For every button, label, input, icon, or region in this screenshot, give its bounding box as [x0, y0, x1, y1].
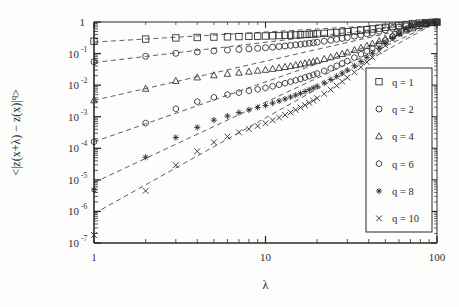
data-point — [194, 148, 200, 154]
data-point — [255, 45, 261, 51]
y-tick-label: 10 — [68, 174, 80, 186]
data-point — [195, 99, 200, 105]
y-tick-label: 10 — [68, 111, 80, 123]
data-point — [328, 77, 334, 83]
data-point — [236, 46, 242, 52]
y-axis-title-close: > — [9, 89, 23, 96]
data-point — [262, 102, 268, 108]
data-point — [364, 31, 370, 37]
x-tick-label: 1 — [91, 251, 97, 263]
data-point — [255, 86, 260, 92]
data-point — [364, 42, 371, 48]
data-point — [246, 88, 251, 94]
data-point — [328, 65, 333, 71]
data-point — [344, 67, 350, 73]
data-point — [376, 45, 382, 51]
data-point — [352, 55, 357, 61]
y-tick-label: 10 — [68, 48, 80, 60]
data-point — [344, 75, 350, 81]
data-point — [194, 34, 200, 40]
x-axis-title: λ — [263, 278, 269, 292]
data-point — [173, 162, 179, 168]
data-point — [143, 188, 149, 194]
data-point — [236, 69, 243, 75]
y-tick-exponent: -2 — [81, 76, 87, 85]
data-point — [276, 82, 281, 88]
data-point — [282, 112, 288, 118]
data-point — [225, 134, 231, 140]
data-point — [211, 94, 216, 100]
data-point — [334, 83, 340, 89]
data-point — [328, 37, 334, 43]
data-point — [270, 83, 275, 89]
legend-label: q = 1 — [392, 77, 414, 88]
legend-box — [366, 68, 432, 232]
legend-label: q = 2 — [392, 104, 414, 115]
data-point — [389, 25, 395, 31]
data-point — [340, 60, 345, 66]
y-axis-title-text: <|z(x+λ) − z(x)|q> — [8, 89, 23, 176]
x-tick-label: 100 — [429, 251, 446, 263]
data-point — [321, 38, 327, 44]
data-point — [270, 100, 276, 106]
data-point — [263, 85, 268, 91]
y-tick-label: 10 — [68, 237, 80, 249]
data-point — [322, 68, 327, 74]
data-point — [276, 32, 282, 38]
data-point — [345, 58, 350, 64]
data-point — [314, 83, 320, 89]
data-point — [91, 187, 97, 193]
data-point — [236, 33, 242, 39]
data-point — [236, 90, 241, 96]
data-point — [194, 124, 200, 130]
data-point — [236, 129, 242, 135]
data-point — [276, 115, 282, 121]
legend-label: q = 4 — [392, 131, 414, 142]
data-point — [352, 69, 358, 75]
data-point — [288, 79, 293, 85]
data-point — [246, 33, 252, 39]
data-point — [246, 126, 252, 132]
data-point — [173, 35, 179, 41]
data-point — [236, 110, 242, 116]
data-point — [263, 45, 269, 51]
data-point — [276, 98, 282, 104]
legend-label: q = 6 — [392, 159, 414, 170]
y-tick-label: 1 — [80, 16, 86, 28]
data-point — [297, 32, 303, 38]
data-point — [314, 70, 319, 76]
data-point — [314, 39, 320, 45]
data-point — [358, 44, 365, 50]
y-tick-label: 10 — [68, 79, 80, 91]
data-point — [282, 43, 288, 49]
y-tick-exponent: -4 — [81, 139, 87, 148]
data-point — [224, 70, 231, 76]
data-point — [276, 44, 282, 50]
data-point — [173, 106, 178, 112]
data-point — [334, 36, 340, 42]
data-point — [269, 33, 275, 39]
data-point — [173, 134, 179, 140]
data-point — [364, 48, 369, 54]
data-point — [358, 64, 364, 70]
data-point — [321, 80, 327, 86]
data-point — [246, 46, 252, 52]
data-point — [246, 107, 252, 113]
data-point — [339, 79, 345, 85]
data-point — [339, 70, 345, 76]
data-point — [389, 35, 395, 41]
y-tick-label: 10 — [68, 142, 80, 154]
data-point — [269, 65, 276, 71]
figure-container: 110100110-110-210-310-410-510-610-7λ<|z(… — [0, 0, 459, 307]
data-point — [255, 104, 261, 110]
y-tick-exponent: -3 — [81, 108, 87, 117]
data-point — [225, 92, 230, 98]
legend-marker-star — [376, 188, 382, 194]
chart-plot: 110100110-110-210-310-410-510-610-7λ<|z(… — [0, 0, 459, 307]
data-point — [143, 154, 149, 160]
data-point — [173, 77, 180, 83]
y-axis-title-main: <|z(x+λ) − z(x)| — [9, 100, 23, 176]
data-point — [270, 117, 276, 123]
legend-label: q = 10 — [392, 213, 419, 224]
y-tick-exponent: -7 — [81, 234, 87, 243]
